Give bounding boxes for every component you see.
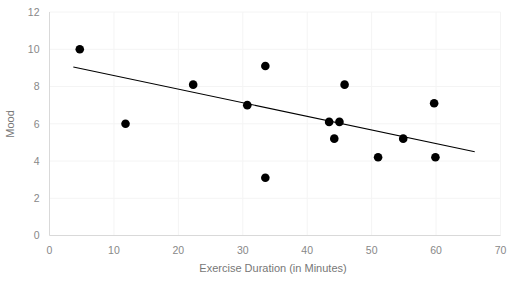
x-tick-label: 10	[108, 244, 120, 256]
chart-canvas: 010203040506070 024681012 Exercise Durat…	[0, 0, 525, 286]
data-point	[374, 153, 383, 162]
y-tick-label: 12	[28, 6, 40, 18]
y-tick-label: 0	[34, 229, 40, 241]
data-point	[399, 134, 408, 143]
x-tick-label: 40	[301, 244, 313, 256]
x-tick-label: 20	[173, 244, 185, 256]
x-tick-label: 70	[495, 244, 507, 256]
x-axis-tick-labels: 010203040506070	[47, 244, 507, 256]
data-point	[189, 80, 198, 89]
x-tick-label: 50	[366, 244, 378, 256]
x-tick-label: 0	[47, 244, 53, 256]
data-point	[75, 45, 84, 54]
y-tick-label: 2	[34, 192, 40, 204]
data-point	[340, 80, 349, 89]
data-point	[330, 134, 339, 143]
trendline-segment	[73, 67, 474, 152]
x-tick-label: 60	[430, 244, 442, 256]
y-tick-label: 4	[34, 155, 40, 167]
x-tick-label: 30	[237, 244, 249, 256]
data-point	[430, 99, 439, 108]
data-point	[261, 62, 270, 71]
scatter-chart: 010203040506070 024681012 Exercise Durat…	[0, 0, 525, 286]
data-point	[243, 101, 252, 110]
x-axis-title: Exercise Duration (in Minutes)	[199, 262, 346, 274]
data-point	[121, 119, 130, 128]
y-tick-label: 8	[34, 80, 40, 92]
trendline	[73, 67, 474, 152]
data-point	[325, 118, 334, 127]
y-axis-title: Mood	[4, 110, 16, 138]
data-point	[431, 153, 440, 162]
gridlines	[50, 12, 501, 236]
y-axis-tick-labels: 024681012	[28, 6, 40, 242]
data-point	[261, 173, 270, 182]
y-tick-label: 10	[28, 43, 40, 55]
y-tick-label: 6	[34, 118, 40, 130]
data-point	[335, 118, 344, 127]
